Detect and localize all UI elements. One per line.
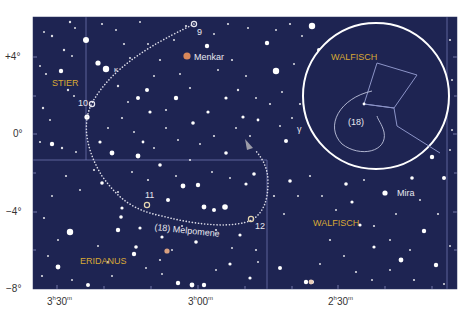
star-label-gamma: γ (297, 124, 302, 134)
ra-label-3h00m: 3h00m (188, 296, 213, 307)
star-label-kappa: κ (114, 65, 118, 74)
star-label-menkar: Menkar (194, 52, 224, 62)
constellation-label-eridanus: ERIDANUS (80, 256, 127, 266)
inset-constellation-label: WALFISCH (331, 52, 377, 62)
menkar-star (183, 52, 190, 59)
path-marker-12-label: 12 (255, 221, 265, 231)
star-chart (0, 0, 473, 317)
inset-walfisch (303, 23, 449, 169)
ra-label-2h30m: 2h30m (328, 296, 353, 307)
constellation-label-stier: STIER (52, 78, 79, 88)
dec-label-minus4: −4° (6, 206, 21, 217)
path-marker-9-label: 9 (197, 27, 202, 37)
ra-label-3h30m: 3h30m (47, 296, 72, 307)
pale-star (309, 280, 314, 285)
orange-star (164, 248, 169, 253)
path-marker-10-label: 10 (78, 98, 88, 108)
constellation-label-walfisch: WALFISCH (313, 218, 359, 228)
inset-path-label: (18) (348, 117, 364, 127)
path-marker-11-label: 11 (145, 190, 154, 200)
dec-label-minus8: −8° (6, 283, 21, 294)
dec-label-0: 0° (13, 128, 23, 139)
star-label-mira: Mira (397, 188, 415, 198)
dec-label-plus4: +4° (5, 51, 20, 62)
